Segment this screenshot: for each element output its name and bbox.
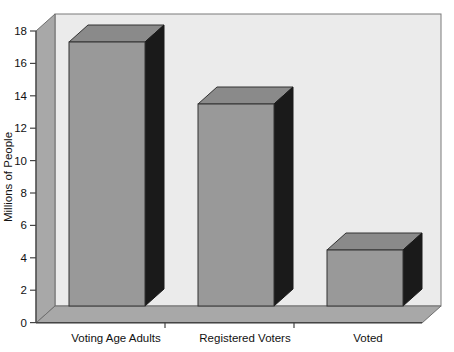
y-tick-2: 2 — [21, 284, 36, 296]
bar-front-face — [198, 104, 274, 306]
bar-group-voting-age-adults[interactable] — [69, 25, 164, 306]
y-axis: 18 16 14 12 10 — [14, 25, 36, 329]
bar-front-face — [327, 250, 403, 306]
y-tick-label: 10 — [14, 155, 27, 167]
x-category-label-2: Voted — [353, 332, 382, 344]
y-tick-16: 16 — [14, 57, 36, 69]
y-tick-label: 4 — [21, 252, 28, 264]
left-wall — [36, 14, 55, 323]
y-tick-label: 18 — [14, 25, 27, 37]
y-tick-label: 2 — [21, 284, 27, 296]
bar-group-registered-voters[interactable] — [198, 87, 293, 306]
y-tick-label: 16 — [14, 57, 27, 69]
y-tick-label: 8 — [21, 187, 27, 199]
y-tick-label: 12 — [14, 122, 27, 134]
y-tick-label: 14 — [14, 90, 27, 102]
y-axis-title: Millions of People — [2, 132, 14, 222]
y-tick-18: 18 — [14, 25, 36, 37]
y-tick-8: 8 — [21, 187, 36, 199]
bar-side-face — [145, 25, 164, 306]
y-tick-10: 10 — [14, 155, 36, 167]
y-tick-14: 14 — [14, 90, 36, 102]
bar-front-face — [69, 42, 145, 306]
x-category-label-0: Voting Age Adults — [71, 332, 161, 344]
x-category-label-1: Registered Voters — [199, 332, 291, 344]
floor — [36, 306, 441, 323]
bar-chart-figure: 18 16 14 12 10 — [0, 0, 454, 352]
y-tick-4: 4 — [21, 252, 36, 264]
bar-side-face — [274, 87, 293, 306]
y-tick-label: 6 — [21, 219, 27, 231]
chart-canvas: 18 16 14 12 10 — [0, 0, 454, 352]
y-tick-label: 0 — [21, 317, 27, 329]
bar-group-voted[interactable] — [327, 233, 422, 306]
y-tick-6: 6 — [21, 219, 36, 231]
y-tick-12: 12 — [14, 122, 36, 134]
y-tick-0: 0 — [21, 317, 36, 329]
